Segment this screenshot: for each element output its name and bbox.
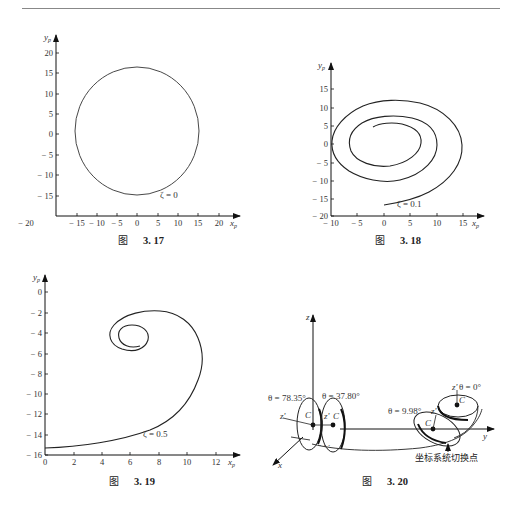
figure-caption-number: 3. 17: [143, 235, 164, 246]
x-axis-label: xp: [227, 457, 235, 468]
x-axis-label: x: [277, 460, 282, 470]
axis-ticks: − 20− 15− 10− 50510152020151050− 5− 10− …: [18, 48, 223, 228]
trajectory-spiral: [332, 100, 462, 205]
figure-3-20: z y x z' C θ = 78.35° z' C θ = 37.80° . …: [268, 312, 494, 487]
y-tick-label: − 5: [42, 150, 53, 160]
y-tick-label: − 15: [38, 191, 53, 201]
y-tick-label: 5: [324, 121, 328, 131]
c-label: C: [459, 395, 466, 405]
x-tick-label: − 20: [18, 218, 33, 228]
theta-37-label: θ = 37.80°: [322, 391, 360, 401]
x-tick-label: 0: [382, 218, 386, 228]
x-tick-label: − 15: [69, 218, 84, 228]
z-axis-label: z: [305, 312, 310, 322]
zprime-axis-line: [433, 415, 436, 429]
figure-caption-number: 3. 20: [387, 476, 408, 487]
x-tick-label: 10: [433, 218, 442, 228]
x-tick-label: 0: [135, 218, 139, 228]
y-tick-label: 0: [324, 139, 328, 149]
theta-78-label: θ = 78.35°: [268, 393, 306, 403]
y-tick-label: 0: [49, 129, 53, 139]
x-tick-label: 5: [408, 218, 412, 228]
x-tick-label: − 5: [111, 218, 122, 228]
figure-canvas: − 20− 15− 10− 50510152020151050− 5− 10− …: [0, 0, 519, 517]
x-tick-label: 8: [157, 457, 161, 467]
figure-caption-prefix: 图: [109, 476, 119, 487]
x-tick-label: 15: [194, 218, 203, 228]
y-tick-label: − 6: [31, 349, 42, 359]
y-tick-label: − 10: [38, 170, 53, 180]
zprime-label: z': [279, 411, 287, 421]
y-axis-label: yp: [317, 60, 325, 71]
y-tick-label: − 4: [31, 328, 43, 338]
axis-ticks: 0246810120− 2− 4− 6− 8− 10− 12− 14− 16: [27, 287, 221, 467]
figure-3-19: 0246810120− 2− 4− 6− 8− 10− 12− 14− 16 y…: [27, 272, 240, 487]
x-tick-label: 10: [183, 457, 192, 467]
y-tick-label: − 8: [31, 369, 42, 379]
x-tick-label: 2: [72, 457, 76, 467]
theta-0-label: θ = 0°: [459, 382, 481, 392]
y-tick-label: − 14: [27, 430, 43, 440]
figure-3-17: − 20− 15− 10− 50510152020151050− 5− 10− …: [18, 32, 240, 246]
y-tick-label: 20: [45, 48, 54, 58]
disk-edge: [438, 406, 468, 420]
y-axis-label: y: [482, 431, 487, 441]
axis-ticks: − 10− 5051015151050− 5− 10− 15− 20: [313, 84, 468, 228]
x-tick-label: 5: [156, 218, 160, 228]
y-tick-label: − 12: [27, 409, 42, 419]
y-tick-label: 5: [49, 109, 53, 119]
y-tick-label: − 10: [27, 389, 42, 399]
x-tick-label: 12: [212, 457, 221, 467]
x-tick-label: 15: [459, 218, 468, 228]
figure-caption-prefix: 图: [362, 476, 372, 487]
x-tick-label: 0: [43, 457, 47, 467]
zeta-label: ζ = 0.5: [143, 429, 168, 439]
c-label: C: [305, 410, 312, 420]
figure-caption-prefix: 图: [375, 235, 385, 246]
x-tick-label: 20: [215, 218, 224, 228]
figure-caption-number: 3. 19: [134, 476, 155, 487]
zprime-label: z': [451, 382, 459, 392]
dash-marks: . . .: [319, 438, 330, 448]
y-tick-label: − 5: [317, 158, 328, 168]
y-tick-label: 10: [320, 103, 329, 113]
y-tick-label: − 10: [313, 176, 328, 186]
zprime-label: z': [430, 406, 438, 416]
bowl-outline: [454, 406, 478, 438]
figure-caption-number: 3. 18: [400, 235, 421, 246]
x-tick-label: 6: [128, 457, 132, 467]
zprime-label: z': [323, 411, 331, 421]
zeta-label: ζ = 0.1: [397, 199, 422, 209]
y-axis-label: yp: [43, 32, 51, 43]
x-tick-label: − 5: [351, 218, 362, 228]
trajectory-circle: [75, 67, 199, 195]
figure-caption-prefix: 图: [118, 235, 128, 246]
x-tick-label: 4: [100, 457, 105, 467]
y-tick-label: − 20: [313, 211, 328, 221]
y-tick-label: 15: [320, 84, 329, 94]
x-tick-label: 10: [174, 218, 183, 228]
y-tick-label: 10: [45, 89, 54, 99]
zeta-label: ζ = 0: [160, 190, 178, 200]
x-tick-label: − 10: [89, 218, 104, 228]
theta-9-label: θ = 9.98°: [388, 406, 422, 416]
trajectory-spiral: [45, 311, 202, 448]
x-axis-label: xp: [229, 218, 237, 229]
switch-point-label: 坐标系统切换点: [415, 452, 478, 463]
y-tick-label: 0: [38, 287, 42, 297]
c-label: C: [333, 411, 340, 421]
x-axis-label: xp: [471, 218, 479, 229]
figure-3-18: − 10− 5051015151050− 5− 10− 15− 20 yp xp…: [313, 60, 484, 246]
y-tick-label: − 15: [313, 194, 328, 204]
y-axis-label: yp: [32, 272, 40, 283]
y-tick-label: − 2: [31, 308, 42, 318]
y-tick-label: 15: [45, 68, 54, 78]
y-tick-label: − 16: [27, 450, 42, 460]
c-label: C: [425, 418, 432, 428]
